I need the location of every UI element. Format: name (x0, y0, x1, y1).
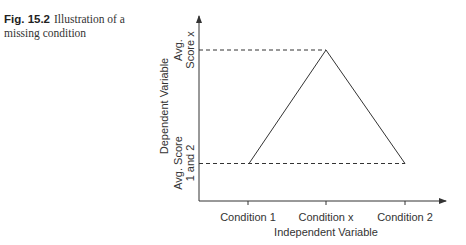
y-tick-label-high-line1: Avg. (172, 39, 184, 61)
y-tick-label-high-line2: Score x (184, 31, 196, 69)
x-tick-label-condition-x: Condition x (298, 211, 354, 223)
x-tick-label-condition-1: Condition 1 (220, 211, 276, 223)
x-axis-label: Independent Variable (274, 226, 378, 238)
chart: Condition 1 Condition x Condition 2 Inde… (0, 0, 466, 245)
x-tick-label-condition-2: Condition 2 (377, 211, 433, 223)
y-tick-label-low-line1: Avg. Score (172, 136, 184, 190)
y-axis-label: Dependent Variable (158, 58, 170, 154)
y-tick-label-low-line2: 1 and 2 (184, 145, 196, 182)
data-line (249, 50, 405, 164)
